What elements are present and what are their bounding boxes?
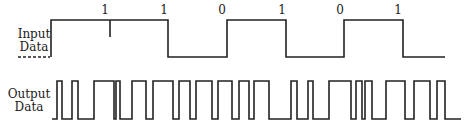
waveforms bbox=[0, 0, 472, 136]
output-waveform bbox=[52, 81, 461, 119]
manchester-encoding-diagram: Input Data Output Data 1 1 0 1 0 1 bbox=[0, 0, 472, 136]
